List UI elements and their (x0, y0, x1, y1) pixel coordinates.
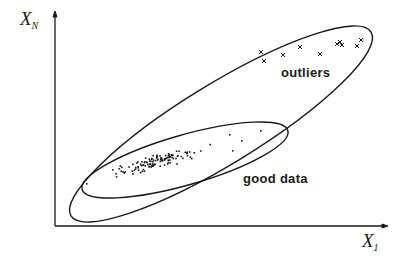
good-data-point (140, 172, 142, 174)
good-data-point (182, 158, 184, 160)
good-data-point (181, 156, 183, 158)
good-data-point (140, 163, 142, 165)
good-data-point (115, 173, 117, 175)
outlier-x-mark-icon (298, 45, 302, 49)
good-data-point (136, 162, 138, 164)
good-data-point (189, 151, 191, 153)
good-data-point (86, 183, 88, 185)
diagram: XN X1 outliers good data (0, 0, 406, 263)
good-data-point (200, 150, 202, 152)
good-data-point (151, 165, 153, 167)
good-data-point (167, 163, 169, 165)
good-data-point (144, 162, 146, 164)
good-data-point (155, 160, 157, 162)
good-data-point (134, 170, 136, 172)
good-data-point (176, 163, 178, 165)
good-data-point (187, 155, 189, 157)
y-axis-arrow-icon (53, 11, 57, 17)
good-data-point (124, 172, 126, 174)
good-data-point (143, 169, 145, 171)
good-data-point (120, 165, 122, 167)
good-data-point (168, 159, 170, 161)
good-data-point (232, 150, 234, 152)
good-data-point (152, 161, 154, 163)
good-data-point (120, 171, 122, 173)
good-data-point (159, 155, 161, 157)
good-data-point (159, 165, 161, 167)
outliers-label: outliers (281, 65, 330, 80)
good-data-point (209, 144, 211, 146)
good-data-point (177, 155, 179, 157)
good-data-point (149, 158, 151, 160)
good-data-point (128, 166, 130, 168)
outlier-x-mark-icon (318, 52, 322, 56)
good-data-point (153, 159, 155, 161)
good-data-point (241, 140, 243, 142)
good-data-point (156, 157, 158, 159)
good-data-point (160, 157, 162, 159)
good-data-point (172, 154, 174, 156)
good-data-point (152, 155, 154, 157)
outlier-x-mark-icon (259, 50, 263, 54)
good-data-point (138, 169, 140, 171)
good-data-point (178, 151, 180, 153)
good-data-point (153, 164, 155, 166)
good-data-point (184, 152, 186, 154)
good-data-point (169, 156, 171, 158)
outer-ellipse (50, 0, 392, 250)
good-data-point (132, 164, 134, 166)
good-data-point (168, 162, 170, 164)
good-data-point (121, 167, 123, 169)
good-data-point (135, 167, 137, 169)
good-data-label: good data (243, 171, 308, 186)
good-data-point (150, 166, 152, 168)
good-data-point (146, 161, 148, 163)
good-data-point (144, 165, 146, 167)
good-data-point (132, 173, 134, 175)
good-data-point (156, 155, 158, 157)
good-data-point (137, 167, 139, 169)
x-axis-arrow-icon (382, 224, 388, 228)
good-data-point (151, 158, 153, 160)
good-data-point (116, 176, 118, 178)
outlier-x-mark-icon (355, 44, 359, 48)
outlier-x-mark-icon (262, 59, 266, 63)
good-data-point (149, 163, 151, 165)
good-data-point (164, 164, 166, 166)
good-data-point (176, 151, 178, 153)
good-data-point (175, 158, 177, 160)
good-data-point (173, 158, 175, 160)
good-data-point (191, 158, 193, 160)
y-axis-label: XN (20, 8, 38, 31)
good-data-point (166, 157, 168, 159)
good-data-point (150, 161, 152, 163)
good-data-point (169, 162, 171, 164)
good-data-point (169, 159, 171, 161)
good-data-point (160, 161, 162, 163)
good-data-point (144, 170, 146, 172)
good-data-points (86, 130, 262, 185)
good-data-point (147, 164, 149, 166)
good-data-point (194, 152, 196, 154)
scatter-diagram (0, 0, 406, 263)
good-data-point (168, 153, 170, 155)
good-data-point (229, 134, 231, 136)
outlier-x-mark-icon (359, 38, 363, 42)
inner-ellipse (75, 106, 294, 213)
good-data-point (145, 157, 147, 159)
good-data-point (132, 170, 134, 172)
good-data-point (141, 165, 143, 167)
good-data-point (161, 160, 163, 162)
good-data-point (142, 171, 144, 173)
good-data-point (157, 159, 159, 161)
good-data-point (112, 169, 114, 171)
good-data-point (142, 165, 144, 167)
x-axis-label: X1 (362, 230, 379, 253)
good-data-point (165, 155, 167, 157)
good-data-point (119, 168, 121, 170)
good-data-point (148, 166, 150, 168)
outlier-x-mark-icon (281, 53, 285, 57)
good-data-point (190, 156, 192, 158)
good-data-point (141, 161, 143, 163)
good-data-point (164, 159, 166, 161)
